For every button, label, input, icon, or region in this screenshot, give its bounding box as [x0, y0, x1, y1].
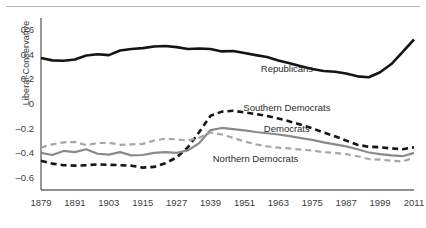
y-tick-label: –0.6: [0, 172, 34, 183]
x-tick-label: 1939: [194, 197, 228, 208]
line-chart-plot: [0, 0, 426, 228]
x-tick-label: 1999: [363, 197, 397, 208]
y-tick-label: 0: [0, 98, 34, 109]
y-tick-label: –0.2: [0, 123, 34, 134]
series-label-northern-democrats: Northern Democrats: [213, 153, 299, 164]
x-tick-label: 1879: [24, 197, 58, 208]
x-tick-label: 1975: [295, 197, 329, 208]
y-tick-label: 0.6: [0, 24, 34, 35]
x-tick-label: 1951: [227, 197, 261, 208]
y-tick-label: 0.4: [0, 49, 34, 60]
axis-lines: [41, 18, 414, 190]
x-tick-label: 2011: [397, 197, 426, 208]
x-tick-label: 1927: [160, 197, 194, 208]
x-tick-label: 1903: [92, 197, 126, 208]
x-tick-label: 1915: [126, 197, 160, 208]
x-tick-label: 1987: [329, 197, 363, 208]
series-label-southern-democrats: Southern Democrats: [243, 102, 330, 113]
chart-figure: Liberal-Conservative 0.60.40.20–0.2–0.4–…: [0, 0, 426, 228]
series-line-republicans: [41, 40, 414, 78]
series-group: [41, 40, 414, 168]
series-label-republicans: Republicans: [261, 63, 313, 74]
x-tick-label: 1891: [58, 197, 92, 208]
x-tick-label: 1963: [261, 197, 295, 208]
y-tick-label: 0.2: [0, 73, 34, 84]
y-tick-label: –0.4: [0, 147, 34, 158]
series-label-democrats: Democrats: [264, 123, 310, 134]
